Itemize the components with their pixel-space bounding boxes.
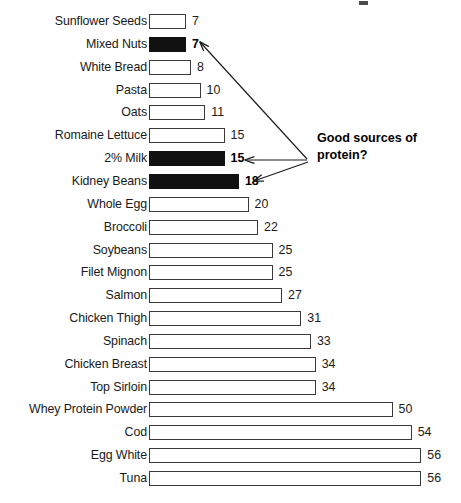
- bar: [149, 220, 258, 235]
- bar: [149, 448, 421, 463]
- bar: [149, 14, 186, 29]
- bar-category-label: Broccoli: [0, 218, 147, 237]
- bar-value-label: 25: [279, 241, 293, 260]
- bar: [149, 425, 412, 440]
- bar-row: Oats11: [0, 103, 461, 122]
- bar-category-label: Soybeans: [0, 241, 147, 260]
- bar: [149, 128, 225, 143]
- bar-category-label: Kidney Beans: [0, 172, 147, 191]
- bar-category-label: Mixed Nuts: [0, 35, 147, 54]
- bar-category-label: Egg White: [0, 446, 147, 465]
- bar-value-label: 50: [399, 400, 413, 419]
- bar-value-label: 15: [231, 126, 245, 145]
- bar: [149, 83, 201, 98]
- bar-category-label: Chicken Breast: [0, 355, 147, 374]
- bar-category-label: Tuna: [0, 469, 147, 488]
- bar-highlighted: [149, 174, 239, 189]
- annotation-line-2: protein?: [317, 147, 457, 164]
- bar-value-label: 18: [245, 172, 259, 191]
- bar-category-label: Whole Egg: [0, 195, 147, 214]
- bar-value-label: 11: [211, 103, 224, 122]
- bar: [149, 471, 421, 486]
- bar: [149, 60, 191, 75]
- bar-row: Spinach33: [0, 332, 461, 351]
- bar-highlighted: [149, 151, 225, 166]
- bar: [149, 334, 311, 349]
- bar-category-label: Whey Protein Powder: [0, 400, 147, 419]
- bar-row: Broccoli22: [0, 218, 461, 237]
- bar-value-label: 56: [427, 446, 441, 465]
- bar-category-label: White Bread: [0, 58, 147, 77]
- bar: [149, 402, 393, 417]
- bar-row: Tuna56: [0, 469, 461, 488]
- annotation-good-sources-of-protein: Good sources of protein?: [317, 130, 457, 164]
- bar-value-label: 25: [279, 263, 293, 282]
- bar-row: Sunflower Seeds7: [0, 12, 461, 31]
- bar-value-label: 7: [192, 35, 199, 54]
- bar-category-label: Salmon: [0, 286, 147, 305]
- bar-category-label: Chicken Thigh: [0, 309, 147, 328]
- bar: [149, 380, 316, 395]
- bar-row: Filet Mignon25: [0, 263, 461, 282]
- bar-row: Whey Protein Powder50: [0, 400, 461, 419]
- bar-row: Kidney Beans18: [0, 172, 461, 191]
- bar-row: Pasta10: [0, 81, 461, 100]
- bar-rows-container: Sunflower Seeds7Mixed Nuts7White Bread8P…: [0, 0, 461, 503]
- bar-value-label: 8: [197, 58, 204, 77]
- bar: [149, 288, 282, 303]
- bar-value-label: 15: [231, 149, 245, 168]
- bar-row: Soybeans25: [0, 241, 461, 260]
- bar-row: Whole Egg20: [0, 195, 461, 214]
- bar-category-label: Top Sirloin: [0, 378, 147, 397]
- bar-category-label: Spinach: [0, 332, 147, 351]
- bar-value-label: 54: [418, 423, 432, 442]
- bar-row: Mixed Nuts7: [0, 35, 461, 54]
- bar-value-label: 34: [322, 378, 336, 397]
- bar-row: White Bread8: [0, 58, 461, 77]
- bar-value-label: 56: [427, 469, 441, 488]
- bar-category-label: Pasta: [0, 81, 147, 100]
- bar-value-label: 20: [255, 195, 269, 214]
- bar-row: Egg White56: [0, 446, 461, 465]
- bar: [149, 311, 301, 326]
- bar-category-label: Sunflower Seeds: [0, 12, 147, 31]
- bar: [149, 197, 249, 212]
- bar-value-label: 31: [307, 309, 321, 328]
- bar-category-label: Filet Mignon: [0, 263, 147, 282]
- bar-highlighted: [149, 37, 186, 52]
- protein-bar-chart: Sunflower Seeds7Mixed Nuts7White Bread8P…: [0, 0, 461, 503]
- bar-value-label: 33: [317, 332, 331, 351]
- bar: [149, 105, 205, 120]
- bar-category-label: Romaine Lettuce: [0, 126, 147, 145]
- bar: [149, 357, 316, 372]
- bar-category-label: 2% Milk: [0, 149, 147, 168]
- bar-value-label: 27: [288, 286, 302, 305]
- bar-row: Chicken Breast34: [0, 355, 461, 374]
- bar-row: Chicken Thigh31: [0, 309, 461, 328]
- bar-category-label: Cod: [0, 423, 147, 442]
- bar-row: Top Sirloin34: [0, 378, 461, 397]
- bar-value-label: 7: [192, 12, 199, 31]
- bar-value-label: 10: [207, 81, 221, 100]
- annotation-line-1: Good sources of: [317, 130, 457, 147]
- bar: [149, 243, 273, 258]
- bar-row: Salmon27: [0, 286, 461, 305]
- bar: [149, 265, 273, 280]
- bar-row: Cod54: [0, 423, 461, 442]
- bar-category-label: Oats: [0, 103, 147, 122]
- bar-value-label: 34: [322, 355, 336, 374]
- bar-value-label: 22: [264, 218, 278, 237]
